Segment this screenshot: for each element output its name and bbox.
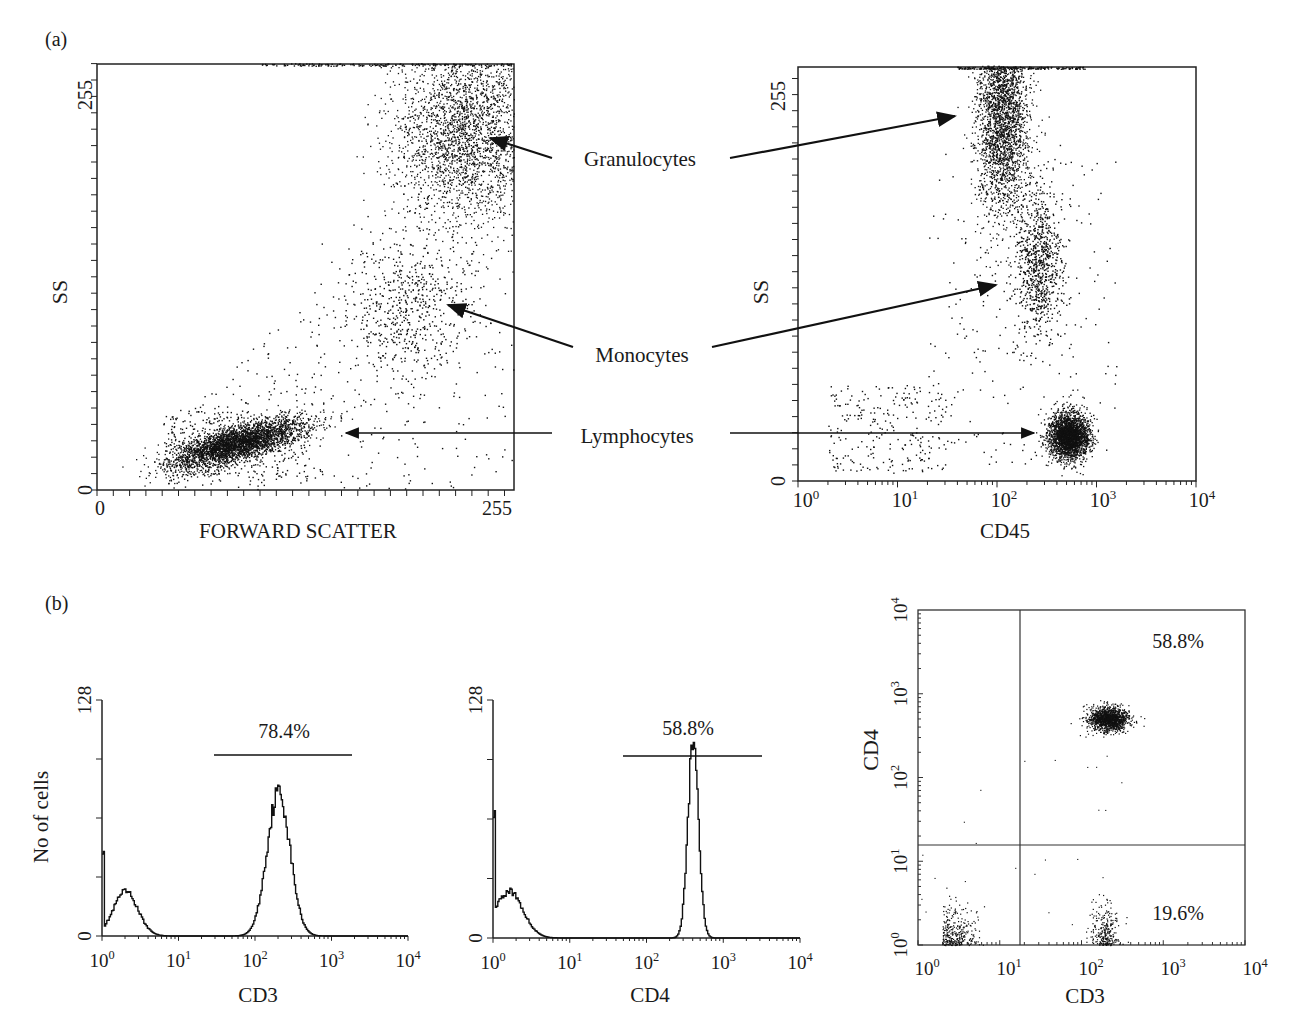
y-tick-255: 255 xyxy=(74,80,96,110)
x-axis-label: CD3 xyxy=(1065,984,1105,1008)
arrow-granulocytes-right xyxy=(730,116,955,158)
label-granulocytes: Granulocytes xyxy=(584,147,696,171)
x-axis-label: CD3 xyxy=(238,983,278,1007)
y-tick-255: 255 xyxy=(767,81,789,111)
x-tick-label: 101 xyxy=(166,948,191,971)
quadrant-plot-cd3-cd4: 58.8% 19.6% 100101102103104 100101102103… xyxy=(858,597,1268,1008)
x-tick-label: 104 xyxy=(787,950,812,973)
x-tick-label: 101 xyxy=(996,956,1021,979)
histogram-cd4: 58.8% 100101102103104 0 128 CD4 xyxy=(465,686,813,1007)
x-tick-label: 100 xyxy=(793,487,820,511)
label-monocytes: Monocytes xyxy=(595,343,688,367)
x-tick-label: 100 xyxy=(914,956,939,979)
x-tick-label: 100 xyxy=(480,950,505,973)
x-tick-label: 102 xyxy=(242,948,267,971)
y-axis-label: CD4 xyxy=(858,729,883,771)
y-tick-128: 128 xyxy=(74,686,95,715)
x-axis-label: CD45 xyxy=(980,519,1030,543)
x-tick-label: 101 xyxy=(557,950,582,973)
arrow-monocytes-left xyxy=(448,305,573,347)
x-tick-label: 102 xyxy=(991,487,1018,511)
x-tick-label: 101 xyxy=(892,487,919,511)
quadrant-ur-percent: 58.8% xyxy=(1152,630,1204,652)
y-tick-0: 0 xyxy=(74,931,95,941)
y-tick-label: 103 xyxy=(888,681,911,706)
x-tick-label: 102 xyxy=(634,950,659,973)
y-tick-label: 102 xyxy=(888,765,911,790)
y-tick-0: 0 xyxy=(767,476,789,486)
y-axis-label: SS xyxy=(748,280,773,304)
x-tick-255: 255 xyxy=(482,497,512,519)
arrow-granulocytes-left xyxy=(490,138,552,158)
x-tick-label: 103 xyxy=(1090,487,1117,511)
label-lymphocytes: Lymphocytes xyxy=(580,424,693,448)
x-tick-label: 104 xyxy=(395,948,420,971)
y-tick-label: 100 xyxy=(888,932,911,957)
y-axis-label: No of cells xyxy=(29,771,53,863)
y-tick-label: 104 xyxy=(888,597,911,622)
y-tick-label: 101 xyxy=(888,849,911,874)
histogram-cd3: 78.4% 100101102103104 0 128 CD3 No of ce… xyxy=(29,686,421,1007)
chart-cd45-ss: 100101102103104 0 255 CD45 SS xyxy=(748,66,1216,544)
quadrant-lr-percent: 19.6% xyxy=(1152,902,1204,924)
y-tick-128: 128 xyxy=(465,686,486,715)
x-axis-label: CD4 xyxy=(630,983,670,1007)
x-tick-label: 103 xyxy=(711,950,736,973)
x-tick-0: 0 xyxy=(95,497,105,519)
chart-fs-ss: 0 255 0 255 FORWARD SCATTER SS xyxy=(47,63,515,543)
x-axis-label: FORWARD SCATTER xyxy=(199,519,397,543)
y-tick-0: 0 xyxy=(74,485,96,495)
gate-percent: 58.8% xyxy=(662,717,714,739)
panel-label-a: (a) xyxy=(45,28,67,51)
panel-label-b: (b) xyxy=(45,592,68,615)
x-tick-label: 102 xyxy=(1078,956,1103,979)
x-tick-label: 104 xyxy=(1242,956,1267,979)
x-tick-label: 104 xyxy=(1189,487,1216,511)
gate-percent: 78.4% xyxy=(258,720,310,742)
figure: (a) (b) 0 255 0 255 FORWARD SCATTER SS 1… xyxy=(0,0,1293,1026)
y-axis-label: SS xyxy=(47,280,72,304)
x-tick-label: 100 xyxy=(89,948,114,971)
x-tick-label: 103 xyxy=(319,948,344,971)
y-tick-0: 0 xyxy=(465,933,486,943)
x-tick-label: 103 xyxy=(1160,956,1185,979)
